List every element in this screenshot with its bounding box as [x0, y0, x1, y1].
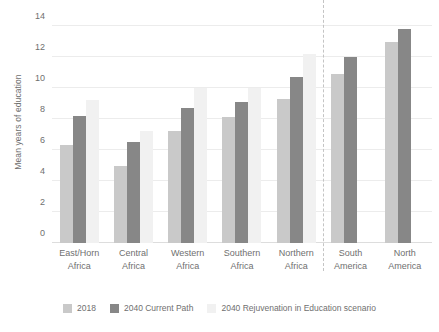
x-axis-label: NorthernAfrica [269, 247, 323, 272]
region-separator-line [323, 0, 324, 271]
legend-item[interactable]: 2018 [63, 303, 96, 313]
x-axis-label-line: America [378, 260, 432, 273]
bar-group [215, 26, 269, 243]
bar [140, 131, 153, 243]
x-axis-label-line: Africa [269, 260, 323, 273]
x-axis-label-line: Southern [215, 247, 269, 260]
x-axis-label: SouthAmerica [323, 247, 377, 272]
y-axis-tick-label: 0 [40, 228, 45, 238]
x-axis-label-line: South [323, 247, 377, 260]
bar [398, 29, 411, 243]
legend-swatch-icon [110, 304, 119, 313]
legend-swatch-icon [207, 304, 216, 313]
bar-groups [52, 26, 432, 243]
bar [344, 57, 357, 243]
x-axis-label-line: Africa [106, 260, 160, 273]
bar [127, 142, 140, 243]
y-axis-tick-label: 2 [40, 197, 45, 207]
y-axis-tick-label: 14 [35, 11, 45, 21]
legend-label: 2040 Current Path [124, 303, 193, 313]
legend-label: 2018 [77, 303, 96, 313]
legend-item[interactable]: 2040 Current Path [110, 303, 193, 313]
x-axis-label: NorthAmerica [378, 247, 432, 272]
x-axis-label: SouthernAfrica [215, 247, 269, 272]
y-axis-tick-label: 4 [40, 166, 45, 176]
legend-label: 2040 Rejuvenation in Education scenario [221, 303, 376, 313]
bar [86, 100, 99, 243]
chart-legend: 20182040 Current Path2040 Rejuvenation i… [0, 303, 439, 313]
bar [248, 88, 261, 243]
y-axis-title: Mean years of education [10, 0, 26, 243]
x-axis-label-line: Western [161, 247, 215, 260]
x-axis-label-line: Africa [161, 260, 215, 273]
x-axis-label-line: East/Horn [52, 247, 106, 260]
x-axis-label: East/HornAfrica [52, 247, 106, 272]
y-axis-title-text: Mean years of education [13, 74, 23, 169]
x-axis-label-line: North [378, 247, 432, 260]
bar [181, 108, 194, 243]
x-axis-label-line: Africa [52, 260, 106, 273]
x-axis-label: CentralAfrica [106, 247, 160, 272]
bar [168, 131, 181, 243]
bar [385, 42, 398, 244]
plot-area: 02468101214 [52, 26, 432, 243]
bar [290, 77, 303, 243]
bar-group [161, 26, 215, 243]
legend-swatch-icon [63, 304, 72, 313]
bar [73, 116, 86, 243]
bar [60, 145, 73, 243]
bar [277, 99, 290, 243]
x-axis-label-line: Northern [269, 247, 323, 260]
x-axis-label: WesternAfrica [161, 247, 215, 272]
bar-group [52, 26, 106, 243]
legend-item[interactable]: 2040 Rejuvenation in Education scenario [207, 303, 376, 313]
bar [235, 102, 248, 243]
bar [331, 74, 344, 243]
bar [114, 166, 127, 244]
bar-group [378, 26, 432, 243]
bar-group [106, 26, 160, 243]
y-axis-tick-label: 6 [40, 135, 45, 145]
bar-group [269, 26, 323, 243]
x-axis-label-line: America [323, 260, 377, 273]
bar-group [323, 26, 377, 243]
bar [194, 88, 207, 243]
bar-chart: Mean years of education 02468101214 East… [0, 0, 439, 332]
y-axis-tick-label: 8 [40, 104, 45, 114]
bar [222, 117, 235, 243]
x-axis-label-line: Africa [215, 260, 269, 273]
x-axis-label-line: Central [106, 247, 160, 260]
y-axis-tick-label: 10 [35, 73, 45, 83]
y-axis-tick-label: 12 [35, 42, 45, 52]
x-axis-labels: East/HornAfricaCentralAfricaWesternAfric… [52, 247, 432, 281]
bar [303, 54, 316, 243]
